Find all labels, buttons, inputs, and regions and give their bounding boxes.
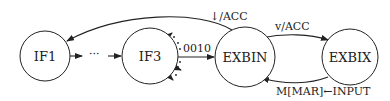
edge-label-v-acc: v/ACC <box>274 20 310 33</box>
node-label: EXBIX <box>329 50 372 65</box>
node-exbin: EXBIN <box>215 27 275 87</box>
edge-label-mmar-input: M[MAR]←INPUT <box>276 85 371 98</box>
node-label: IF1 <box>34 49 56 64</box>
ellipsis-label: ··· <box>89 48 100 61</box>
node-label: EXBIN <box>223 50 268 65</box>
edge-exbix-to-exbin <box>262 77 328 83</box>
node-label: IF3 <box>139 49 161 64</box>
edge-label-down-acc: ↓/ACC <box>210 10 248 23</box>
node-if3: IF3 <box>122 28 178 84</box>
edge-label-0010: 0010 <box>183 42 211 55</box>
node-exbix: EXBIX <box>322 29 378 85</box>
node-if1: IF1 <box>20 31 70 81</box>
edge-exbin-to-exbix <box>261 35 328 40</box>
state-diagram: ··· 0010 ↓/ACC v/ACC M[MAR]←INPUT IF1 IF… <box>0 0 390 101</box>
